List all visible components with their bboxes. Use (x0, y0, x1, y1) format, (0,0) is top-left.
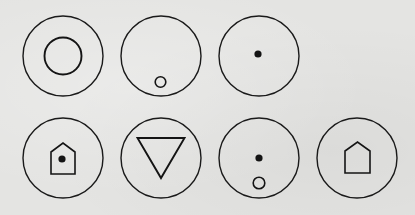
outer-circle-icon (121, 118, 201, 198)
outer-circle-icon (23, 16, 103, 96)
symbol-inverted-triangle (121, 118, 201, 198)
outer-circle-icon (317, 118, 397, 198)
dot-icon (255, 154, 262, 161)
symbol-small-circle-bottom (121, 16, 201, 96)
house-icon (345, 142, 370, 173)
symbol-house-outline (317, 118, 397, 198)
symbol-center-dot (219, 16, 299, 96)
symbol-diagram (0, 0, 415, 215)
inner-circle-icon (45, 38, 82, 75)
symbol-canvas (0, 0, 415, 215)
dot-icon (58, 155, 65, 162)
small-circle-icon (155, 77, 166, 88)
small-circle-icon (253, 177, 265, 189)
symbol-dot-above-circle (219, 118, 299, 198)
dot-icon (254, 50, 261, 57)
symbol-concentric-circle (23, 16, 103, 96)
inverted-triangle-icon (138, 138, 185, 178)
outer-circle-icon (121, 16, 201, 96)
symbol-house-with-dot (23, 118, 103, 198)
